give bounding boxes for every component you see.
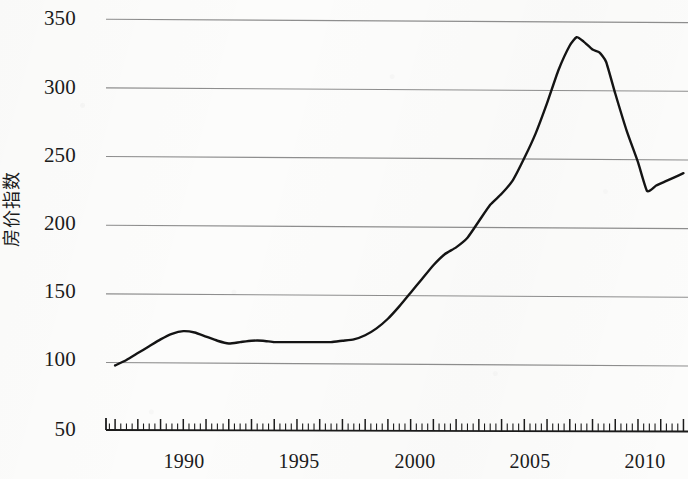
x-axis-line: [106, 430, 688, 432]
gridline-150: [106, 294, 688, 297]
x-tick-label-1990: 1990: [144, 450, 224, 473]
plot-area: [0, 0, 688, 479]
data-line-house-price-index: [115, 37, 683, 365]
gridline-200: [106, 225, 688, 228]
gridline-100: [106, 363, 688, 366]
gridline-300: [106, 88, 688, 91]
gridline-250: [106, 157, 688, 160]
y-tick-label-150: 150: [18, 279, 76, 304]
x-tick-label-1995: 1995: [259, 450, 339, 473]
y-tick-label-300: 300: [18, 75, 76, 100]
y-tick-label-350: 350: [18, 6, 76, 31]
x-tick-label-2000: 2000: [375, 450, 455, 473]
gridlines: [106, 19, 688, 366]
x-tick-label-2010: 2010: [605, 450, 685, 473]
chart-container: 房价指数 350 300 250 200 150 100 50 1990 199…: [0, 0, 688, 479]
y-tick-label-200: 200: [18, 211, 76, 236]
y-tick-label-250: 250: [18, 143, 76, 168]
y-tick-label-100: 100: [18, 347, 76, 372]
x-axis: [106, 418, 688, 432]
y-tick-label-50: 50: [18, 417, 76, 442]
gridline-350: [106, 19, 688, 22]
y-axis-title: 房价指数: [0, 161, 23, 257]
x-tick-label-2005: 2005: [490, 450, 570, 473]
